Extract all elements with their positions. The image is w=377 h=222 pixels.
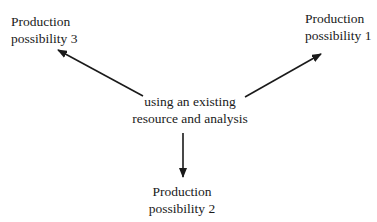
node-production-possibility-1: Production possibility 1 [305,10,371,44]
center-node-existing-resource: using an existing resource and analysis [110,93,270,127]
node-label-line: Production [11,13,77,30]
node-label-line: Production [132,183,232,200]
node-production-possibility-3: Production possibility 3 [11,13,77,47]
node-label-line: possibility 3 [11,30,77,47]
node-label-line: possibility 2 [132,200,232,217]
center-label-line: using an existing [110,93,270,110]
arrow-to-possibility-3 [58,50,143,96]
node-label-line: Production [305,10,371,27]
arrow-to-possibility-1 [245,54,321,97]
node-production-possibility-2: Production possibility 2 [132,183,232,217]
center-label-line: resource and analysis [110,110,270,127]
node-label-line: possibility 1 [305,27,371,44]
